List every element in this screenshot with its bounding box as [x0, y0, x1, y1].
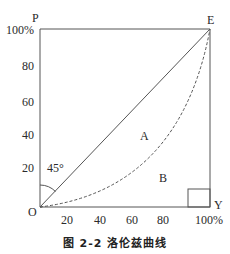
x-tick-40: 40 [85, 214, 115, 226]
x-tick-20: 20 [52, 214, 82, 226]
y-tick-40: 40 [0, 129, 34, 141]
area-a-label: A [140, 130, 149, 142]
area-b-label: B [159, 172, 167, 184]
origin-label: O [28, 206, 37, 218]
point-e-label: E [207, 14, 214, 26]
figure-caption: 图 2-2 洛伦兹曲线 [0, 234, 230, 250]
y-tick-20: 20 [0, 162, 34, 174]
equality-line [40, 29, 210, 207]
y-tick-80: 80 [0, 60, 34, 72]
x-tick-80: 80 [148, 214, 178, 226]
right-angle-marker [188, 189, 210, 207]
x-axis-label: Y [214, 199, 223, 211]
x-tick-60: 60 [117, 214, 147, 226]
angle-arc [40, 185, 56, 192]
y-tick-100: 100% [0, 24, 34, 36]
angle-label: 45° [47, 162, 64, 174]
y-tick-60: 60 [0, 96, 34, 108]
x-tick-100: 100% [189, 214, 229, 226]
